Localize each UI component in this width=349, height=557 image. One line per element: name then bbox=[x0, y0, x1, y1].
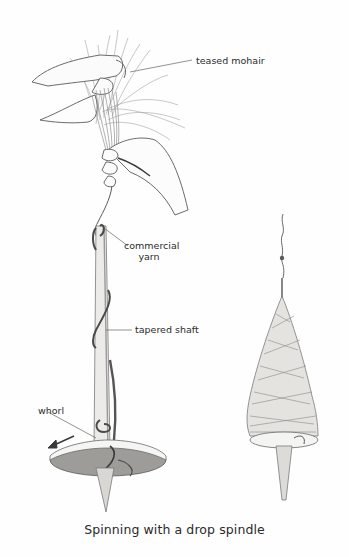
label-commercial-yarn-line2: yarn bbox=[124, 251, 174, 262]
label-whorl: whorl bbox=[38, 405, 64, 416]
spindle-top-hook bbox=[281, 214, 283, 278]
full-spindle bbox=[247, 214, 318, 500]
tapered-shaft bbox=[94, 226, 110, 450]
spindle-tip bbox=[96, 468, 114, 512]
label-tapered-shaft: tapered shaft bbox=[135, 324, 199, 335]
yarn-cone bbox=[247, 296, 318, 436]
label-teased-mohair: teased mohair bbox=[196, 55, 265, 66]
figure-caption: Spinning with a drop spindle bbox=[0, 522, 349, 537]
drop-spindle-illustration bbox=[0, 0, 349, 557]
label-commercial-yarn-line1: commercial bbox=[124, 240, 174, 251]
spindle-tip-right bbox=[276, 446, 292, 500]
lower-hand bbox=[102, 138, 188, 215]
teased-mohair-fiber bbox=[70, 30, 185, 140]
upper-hand bbox=[32, 55, 126, 123]
